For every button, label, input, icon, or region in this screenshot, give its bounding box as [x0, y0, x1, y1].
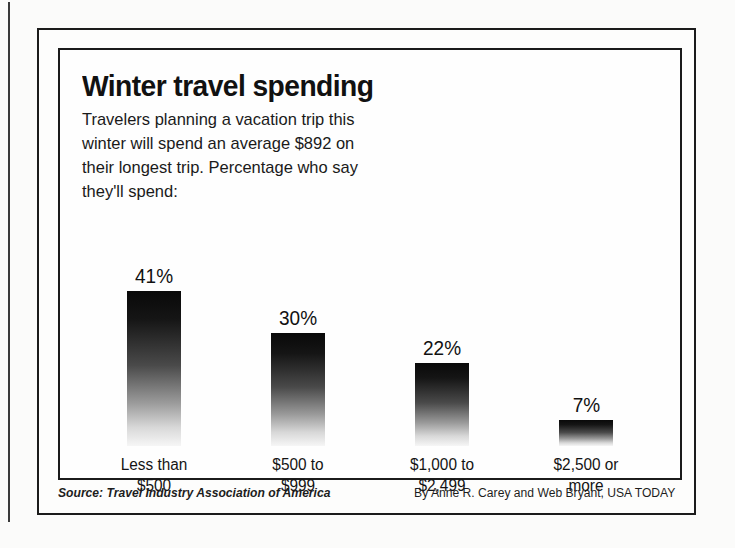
- category-label-line: Less than: [85, 454, 223, 475]
- graphic-inner-frame: Winter travel spending Travelers plannin…: [58, 48, 682, 480]
- bar-slot: 22%: [370, 246, 514, 446]
- page-column-rule: [8, 2, 10, 522]
- source-credit: Source: Travel Industry Association of A…: [58, 486, 330, 500]
- category-label-line: $2,500 or: [517, 454, 655, 475]
- bar-slot: 30%: [226, 246, 370, 446]
- category-label-line: $500 to: [229, 454, 367, 475]
- bar: [271, 333, 325, 446]
- chart-title: Winter travel spending: [82, 70, 623, 102]
- bar-series: 41% 30% 22% 7%: [82, 246, 658, 446]
- chart-body: Winter travel spending Travelers plannin…: [60, 50, 680, 478]
- bar-value-label: 30%: [279, 308, 317, 328]
- chart-footer: Source: Travel Industry Association of A…: [58, 486, 675, 500]
- chart-subtitle: Travelers planning a vacation trip this …: [82, 108, 383, 205]
- bar: [127, 291, 181, 446]
- bar-value-label: 7%: [572, 395, 599, 415]
- bar-slot: 7%: [514, 246, 658, 446]
- bar-slot: 41%: [82, 246, 226, 446]
- author-credit: By Anne R. Carey and Web Bryant, USA TOD…: [414, 486, 675, 500]
- bar: [415, 363, 469, 446]
- bar: [559, 420, 613, 446]
- plot-area: 41% 30% 22% 7%: [82, 246, 658, 446]
- category-label-line: $1,000 to: [373, 454, 511, 475]
- bar-value-label: 22%: [423, 338, 461, 358]
- bar-value-label: 41%: [135, 266, 173, 286]
- graphic-outer-frame: Winter travel spending Travelers plannin…: [37, 28, 696, 515]
